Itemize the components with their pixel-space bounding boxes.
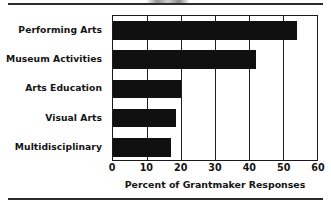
bar-band <box>113 104 317 133</box>
x-tick-30: 30 <box>208 162 221 173</box>
category-axis-labels: Performing Arts Museum Activities Arts E… <box>0 15 108 161</box>
bar-band <box>113 74 317 103</box>
category-label-arts-education: Arts Education <box>25 73 102 102</box>
bar-multidisciplinary[interactable] <box>113 138 171 157</box>
bottom-horizontal-rule <box>8 198 323 200</box>
bar-visual-arts[interactable] <box>113 109 176 128</box>
category-label-multidisciplinary: Multidisciplinary <box>15 132 102 161</box>
bar-performing-arts[interactable] <box>113 21 297 40</box>
x-axis-tick-labels: 0 10 20 30 40 50 60 <box>112 162 318 176</box>
x-tick-50: 50 <box>277 162 290 173</box>
x-tick-10: 10 <box>140 162 153 173</box>
x-tick-40: 40 <box>243 162 256 173</box>
x-axis-title: Percent of Grantmaker Responses <box>112 179 318 190</box>
x-tick-60: 60 <box>311 162 324 173</box>
x-tick-0: 0 <box>109 162 116 173</box>
category-label-visual-arts: Visual Arts <box>45 103 102 132</box>
top-horizontal-rule <box>8 3 323 5</box>
bar-band <box>113 16 317 45</box>
bar-band <box>113 133 317 162</box>
category-label-museum-activities: Museum Activities <box>6 44 102 73</box>
bar-band <box>113 45 317 74</box>
category-label-performing-arts: Performing Arts <box>18 15 102 44</box>
bar-arts-education[interactable] <box>113 80 181 99</box>
figure-container: Performing Arts Museum Activities Arts E… <box>0 0 331 205</box>
plot-inner <box>113 16 317 160</box>
x-tick-20: 20 <box>174 162 187 173</box>
plot-area <box>112 15 318 161</box>
bar-museum-activities[interactable] <box>113 50 256 69</box>
